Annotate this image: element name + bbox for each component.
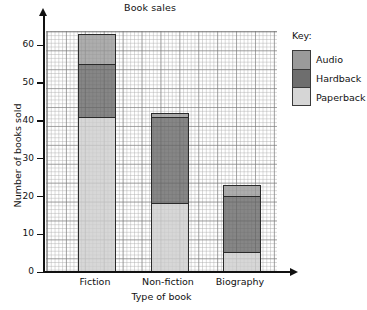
legend: Key: Audio Hardback Paperback <box>292 30 366 46</box>
y-tick-mark <box>37 196 43 197</box>
bar-non-fiction <box>151 113 189 272</box>
legend-label-audio: Audio <box>316 54 343 65</box>
legend-swatch-paperback <box>293 87 310 105</box>
y-tick-mark <box>37 45 43 46</box>
plot-area <box>46 31 277 272</box>
bar-fiction <box>78 34 116 272</box>
legend-title: Key: <box>292 30 366 41</box>
y-tick-mark <box>37 234 43 235</box>
y-tick-mark <box>37 82 43 83</box>
bar-segment-paperback <box>224 253 260 272</box>
bar-segment-audio <box>79 35 115 65</box>
y-tick-label: 50 <box>23 77 34 87</box>
y-tick-label: 10 <box>23 228 34 238</box>
bar-biography <box>223 185 261 272</box>
legend-swatches <box>292 50 311 106</box>
y-tick-mark <box>37 272 43 273</box>
y-axis-title: Number of books sold <box>12 86 23 226</box>
bar-segment-hardback <box>152 118 188 204</box>
x-axis-arrow-icon <box>290 268 298 276</box>
x-category-biography: Biography <box>202 276 278 287</box>
legend-label-paperback: Paperback <box>316 92 365 103</box>
x-axis-title: Type of book <box>46 291 277 302</box>
x-category-fiction: Fiction <box>57 276 133 287</box>
y-axis-line <box>43 14 45 272</box>
y-tick-mark <box>37 158 43 159</box>
y-tick-mark <box>37 120 43 121</box>
bar-segment-hardback <box>79 65 115 118</box>
legend-swatch-hardback <box>293 69 310 87</box>
y-tick-label: 0 <box>28 266 34 276</box>
y-tick-label: 40 <box>23 115 34 125</box>
bar-segment-paperback <box>152 204 188 272</box>
bar-segment-audio <box>152 114 188 118</box>
y-axis-arrow-icon <box>39 8 47 16</box>
bar-segment-paperback <box>79 118 115 272</box>
legend-swatch-audio <box>293 51 310 69</box>
bar-segment-hardback <box>224 197 260 253</box>
x-category-non-fiction: Non-fiction <box>130 276 206 287</box>
x-axis-line <box>43 271 291 273</box>
book-sales-chart: Book sales 0 10 2 <box>0 0 367 310</box>
legend-label-hardback: Hardback <box>316 73 361 84</box>
y-tick-label: 30 <box>23 153 34 163</box>
bar-segment-audio <box>224 186 260 197</box>
y-tick-label: 20 <box>23 191 34 201</box>
y-tick-label: 60 <box>23 39 34 49</box>
